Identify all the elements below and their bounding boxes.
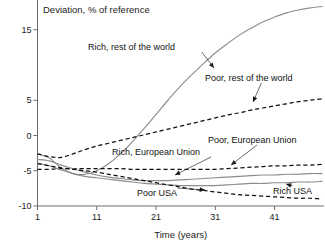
annotation-arrow-icon [231, 160, 237, 165]
deviation-line-chart: 201550-5-10111213141Deviation, % of refe… [0, 0, 325, 251]
series-annotation-label: Rich USA [273, 186, 312, 196]
y-tick-label: 0 [26, 131, 31, 141]
series-annotation-label: Rich, rest of the world [88, 42, 175, 52]
series-annotation-label: Poor, European Union [208, 135, 297, 145]
x-tick-label: 41 [270, 212, 280, 222]
x-tick-label: 21 [151, 212, 161, 222]
y-tick-label: 5 [26, 95, 31, 105]
x-tick-label: 31 [210, 212, 220, 222]
x-tick-label: 1 [35, 212, 40, 222]
annotation-leader-line [175, 157, 211, 175]
y-tick-label: 15 [21, 25, 31, 35]
series-annotation-label: Rich, European Union [112, 147, 200, 157]
chart-container: 201550-5-10111213141Deviation, % of refe… [0, 0, 325, 251]
y-tick-label: -10 [18, 201, 31, 211]
x-axis-title: Time (years) [154, 229, 207, 240]
series-annotation-label: Poor USA [137, 188, 177, 198]
series-line-2 [38, 164, 323, 169]
annotation-arrow-icon [200, 187, 205, 192]
annotation-arrow-icon [209, 62, 214, 68]
chart-title: Deviation, % of reference [43, 4, 150, 15]
x-tick-label: 11 [92, 212, 101, 222]
y-tick-label: -5 [23, 166, 31, 176]
series-annotation-label: Poor, rest of the world [205, 73, 293, 83]
